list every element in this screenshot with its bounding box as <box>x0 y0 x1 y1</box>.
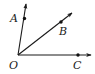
label-c: C <box>73 59 82 72</box>
label-a: A <box>9 12 18 25</box>
angle-rays-diagram: A B C O <box>0 0 95 74</box>
ray-oa <box>18 4 26 55</box>
label-o: O <box>9 59 18 72</box>
point-c <box>76 53 79 56</box>
label-b: B <box>58 25 67 38</box>
point-a <box>23 17 26 20</box>
point-b <box>59 20 62 23</box>
